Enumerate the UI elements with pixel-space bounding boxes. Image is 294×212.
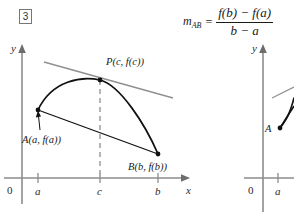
formula-equals: = [205, 15, 212, 30]
origin-label: 0 [7, 184, 13, 196]
origin-label: 0 [248, 184, 254, 196]
point-B [156, 152, 161, 157]
x-tick-label-c: c [97, 185, 102, 197]
formula-numerator: f(b) − f(a) [216, 6, 273, 21]
formula-fraction: f(b) − f(a) b − a [216, 6, 273, 38]
point-P [98, 78, 103, 83]
point-A-label: A [264, 123, 272, 134]
tangent-line-at-P [44, 62, 173, 98]
slope-formula: mAB = f(b) − f(a) b − a [183, 6, 273, 38]
y-axis-label: y [10, 42, 16, 54]
secant-line-AB [38, 110, 158, 154]
point-A [278, 126, 283, 131]
tangent-line [272, 87, 294, 98]
x-tick-label-a: a [275, 185, 281, 197]
exercise-number-box: 3 [19, 9, 32, 24]
point-P-label: P(c, f(c)) [105, 56, 144, 68]
point-A-leader-arrow [36, 111, 41, 131]
x-tick-label-b: b [155, 185, 161, 197]
x-axis [4, 174, 190, 182]
formula-lhs: mAB [183, 14, 201, 30]
left-figure: y x 0 a c b [0, 36, 200, 212]
right-figure: y 0 a A [200, 36, 294, 212]
y-axis-label: y [251, 42, 257, 54]
y-axis [18, 44, 26, 204]
x-tick-label-a: a [35, 185, 41, 197]
x-axis-label: x [185, 184, 191, 196]
point-B-label: B(b, f(b)) [128, 161, 168, 173]
point-A-label: A(a, f(a)) [21, 134, 62, 146]
figure-page: 3 mAB = f(b) − f(a) b − a y x 0 [0, 0, 294, 212]
